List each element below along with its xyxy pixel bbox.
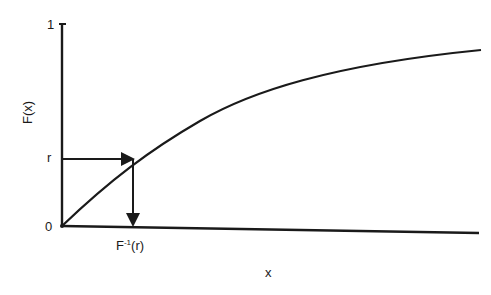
diagram-canvas bbox=[0, 0, 491, 295]
vertical-arrow-head-icon bbox=[126, 213, 140, 227]
x-tick-label-sup: -1 bbox=[124, 238, 131, 247]
y-axis-label: F(x) bbox=[21, 101, 34, 124]
y-tick-label-0: 0 bbox=[45, 220, 52, 233]
x-axis bbox=[62, 226, 479, 233]
x-axis-label: x bbox=[265, 266, 272, 279]
y-tick-label-r: r bbox=[47, 151, 51, 164]
cdf-curve bbox=[62, 50, 481, 226]
x-tick-label-base: F bbox=[116, 238, 124, 253]
x-tick-label-suffix: (r) bbox=[131, 238, 144, 253]
diagram: 1 r 0 F(x) F-1(r) x bbox=[0, 0, 491, 295]
x-tick-label-inverse: F-1(r) bbox=[116, 239, 144, 252]
y-tick-label-1: 1 bbox=[47, 18, 54, 31]
